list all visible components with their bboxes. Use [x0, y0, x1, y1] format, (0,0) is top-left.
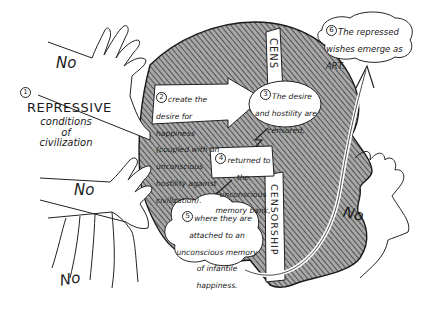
step-5-text: where they are attached to an unconsciou… — [176, 214, 257, 290]
step-3: 3The desire and hostility are censored, — [252, 86, 320, 136]
step-1-text: conditions of civilization — [36, 117, 96, 149]
step-1-number: 1 — [20, 84, 32, 101]
illustration: No No No No 1 REPRESSIVE conditions of c… — [0, 0, 423, 314]
censorship-bar-label: CENSORSHIP — [269, 184, 280, 256]
no-label-2: No — [74, 183, 94, 199]
step-4-text: returned to the unconscious memory bank, — [215, 156, 270, 215]
no-label-1: No — [56, 56, 76, 72]
step-2-text: create the desire for happiness (coupled… — [156, 95, 219, 205]
hand-middle-left — [40, 158, 152, 229]
no-label-3: No — [59, 270, 82, 289]
step-6-text: The repressed wishes emerge as ART. — [326, 27, 403, 71]
step-6: 6The repressed wishes emerge as ART. — [326, 22, 410, 72]
step-1-title: REPRESSIVE — [27, 101, 112, 115]
step-5: 5where they are attached to an unconscio… — [176, 208, 258, 292]
censor-bar-label: CENS — [268, 38, 279, 69]
